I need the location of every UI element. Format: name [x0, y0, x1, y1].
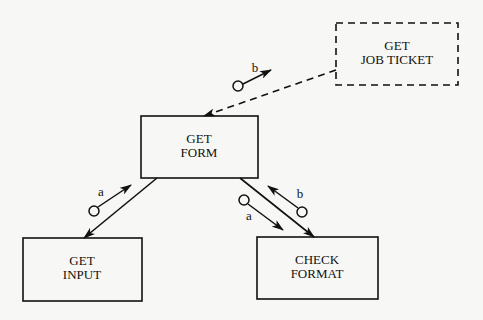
module-check-format-line1: CHECK	[295, 252, 340, 267]
couple-label: a	[98, 184, 104, 199]
couple-label: b	[252, 60, 259, 75]
module-get-input-line2: INPUT	[63, 267, 101, 282]
couple-b-jobticket: b	[233, 60, 271, 91]
module-get-form-line1: GET	[186, 131, 211, 146]
couple-label: b	[297, 186, 304, 201]
module-get-form: GET FORM	[141, 116, 258, 178]
module-get-job-ticket-line1: GET	[384, 38, 409, 53]
couple-label: a	[246, 208, 252, 223]
couple-b-check: b	[268, 186, 307, 217]
structure-chart: GET JOB TICKET GET FORM GET INPUT CHECK …	[0, 0, 483, 320]
connection-jobticket-form	[204, 70, 336, 116]
module-get-input: GET INPUT	[23, 238, 142, 301]
couple-a-input: a	[89, 184, 131, 216]
module-check-format: CHECK FORMAT	[257, 237, 378, 299]
module-get-job-ticket-line2: JOB TICKET	[361, 52, 433, 67]
module-get-job-ticket: GET JOB TICKET	[336, 23, 458, 85]
data-couple-circle-icon	[297, 207, 307, 217]
data-couple-circle-icon	[89, 206, 99, 216]
data-couple-circle-icon	[233, 81, 243, 91]
module-check-format-line2: FORMAT	[291, 266, 344, 281]
module-get-form-line2: FORM	[181, 145, 218, 160]
data-couple-circle-icon	[239, 195, 249, 205]
couple-a-check: a	[239, 195, 283, 230]
module-get-input-line1: GET	[69, 253, 94, 268]
